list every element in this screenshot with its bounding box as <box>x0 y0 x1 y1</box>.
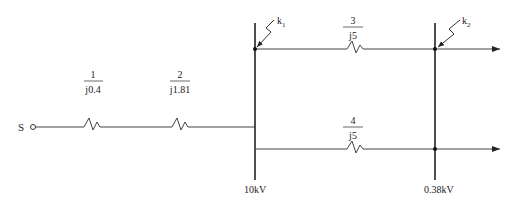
fault-k2-label: k2 <box>462 15 471 29</box>
bus-10kv-label: 10kV <box>244 184 267 195</box>
fault-k1-label: k1 <box>277 15 286 29</box>
branch-4 <box>255 141 500 153</box>
element-1-number: 1 <box>91 69 96 80</box>
element-4-number: 4 <box>351 115 356 126</box>
fault-k2-icon: k2 <box>438 15 471 47</box>
element-4-impedance: j5 <box>348 130 357 141</box>
fault-k1-icon: k1 <box>257 15 286 47</box>
element-4-label: 4 j5 <box>343 115 363 141</box>
branch-3 <box>253 41 500 53</box>
feeder-line <box>36 118 256 130</box>
element-3-impedance: j5 <box>348 30 357 41</box>
source-label: S <box>18 121 24 133</box>
element-3-number: 3 <box>351 15 356 26</box>
element-2-number: 2 <box>178 69 183 80</box>
element-3-label: 3 j5 <box>343 15 363 41</box>
element-2-label: 2 j1.81 <box>169 69 190 95</box>
bus-038kv-label: 0.38kV <box>424 184 455 195</box>
element-2-impedance: j1.81 <box>169 84 190 95</box>
source-terminal-icon <box>31 125 36 130</box>
element-1-impedance: j0.4 <box>84 84 100 95</box>
element-1-label: 1 j0.4 <box>84 69 103 95</box>
single-line-diagram: S 1 j0.4 2 j1.81 10kV 0.38kV 3 j5 4 j5 <box>0 0 521 209</box>
